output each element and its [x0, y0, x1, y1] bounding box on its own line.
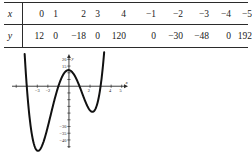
y-axis-label: y [70, 56, 74, 61]
table-cell: 3 [86, 9, 100, 19]
x-tick-label: 2 [88, 88, 90, 93]
x-tick-label: 5 [119, 88, 122, 93]
value-table: x 0 1 2 3 4 −1 −2 −3 −4 −5 y 12 0 −18 0 … [0, 2, 252, 50]
table-row: y 12 0 −18 0 120 0 −30 −48 0 192 [0, 25, 252, 47]
table-cell: −18 [58, 31, 86, 41]
figure-root: x 0 1 2 3 4 −1 −2 −3 −4 −5 y 12 0 −18 0 … [0, 0, 252, 157]
y-tick-label: −30 [59, 124, 67, 129]
x-axis-arrowhead [124, 84, 128, 88]
table-cell: −48 [183, 31, 209, 41]
table-cell: −3 [183, 9, 209, 19]
y-tick-label: 20 [62, 57, 67, 62]
plot-svg: −3−2245 2015−30−35−40 x y [2, 50, 134, 156]
table-cell: 192 [231, 31, 252, 41]
table-row: x 0 1 2 3 4 −1 −2 −3 −4 −5 [0, 3, 252, 25]
table-cell: 120 [100, 31, 126, 41]
table-cell: 0 [209, 31, 231, 41]
table-rule-bottom [4, 47, 248, 48]
x-tick-label: 4 [109, 88, 112, 93]
table-cell: −4 [209, 9, 231, 19]
x-tick-label: −2 [46, 88, 51, 93]
row-header-y: y [0, 31, 20, 41]
table-cell: 2 [58, 9, 86, 19]
table-cell: 4 [100, 9, 126, 19]
axes [12, 54, 128, 148]
table-cell: −1 [126, 9, 156, 19]
x-axis-tick-labels: −3−2245 [35, 88, 122, 93]
y-tick-label: −40 [59, 138, 67, 143]
row-header-x: x [0, 9, 20, 19]
table-cell: −30 [156, 31, 183, 41]
table-cell: 12 [24, 31, 44, 41]
table-cell: −2 [156, 9, 183, 19]
table-cell: 0 [86, 31, 100, 41]
table-cell: 1 [44, 9, 58, 19]
y-tick-label: 15 [62, 64, 67, 69]
x-axis-label: x [125, 80, 129, 85]
row-cells-y: 12 0 −18 0 120 0 −30 −48 0 192 [20, 31, 252, 41]
y-tick-label: −35 [59, 131, 67, 136]
table-cell: 0 [126, 31, 156, 41]
x-tick-label: −3 [35, 88, 40, 93]
table-cell: −5 [231, 9, 252, 19]
y-axis-arrowhead [67, 54, 71, 58]
polynomial-graph: −3−2245 2015−30−35−40 x y [2, 50, 134, 156]
table-cell: 0 [44, 31, 58, 41]
table-cell: 0 [24, 9, 44, 19]
row-cells-x: 0 1 2 3 4 −1 −2 −3 −4 −5 [20, 9, 252, 19]
